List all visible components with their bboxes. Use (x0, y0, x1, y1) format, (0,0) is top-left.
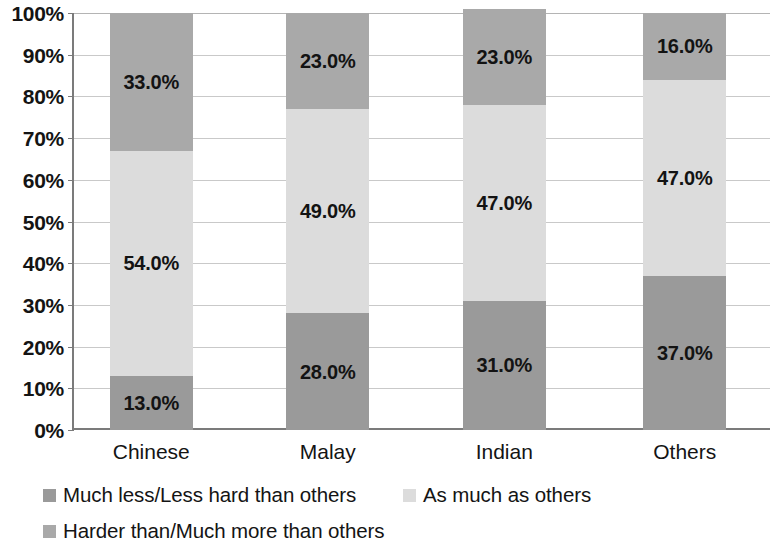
x-axis: ChineseMalayIndianOthers (72, 440, 770, 474)
stacked-bar-chart: 100%90%80%70%60%50%40%30%20%10%0% 13.0%5… (0, 0, 782, 553)
y-axis-tick-label: 60% (23, 169, 64, 190)
legend-item[interactable]: Much less/Less hard than others (43, 485, 356, 506)
bars-layer: 13.0%54.0%33.0%28.0%49.0%23.0%31.0%47.0%… (72, 13, 770, 430)
legend-label: Harder than/Much more than others (63, 521, 384, 542)
bar-segment[interactable]: 28.0% (286, 313, 369, 430)
x-axis-tick-label: Chinese (64, 440, 239, 463)
bar-segment-value-label: 23.0% (463, 47, 546, 67)
bar-segment[interactable]: 31.0% (463, 301, 546, 430)
bar-segment-value-label: 37.0% (643, 343, 726, 363)
bar-segment[interactable]: 37.0% (643, 276, 726, 430)
legend-label: Much less/Less hard than others (63, 485, 356, 506)
bar-segment-value-label: 47.0% (463, 193, 546, 213)
bar-segment[interactable]: 33.0% (110, 13, 193, 151)
legend-swatch-icon (43, 489, 56, 502)
x-axis-tick-label: Indian (417, 440, 592, 463)
y-axis-tick-label: 70% (23, 128, 64, 149)
y-axis-tick-label: 90% (23, 44, 64, 65)
bar-segment[interactable]: 54.0% (110, 151, 193, 376)
bar-stack: 13.0%54.0%33.0% (110, 13, 193, 430)
y-axis-tick-mark (68, 430, 74, 431)
bar-segment-value-label: 33.0% (110, 72, 193, 92)
bar-segment[interactable]: 23.0% (286, 13, 369, 109)
y-axis-tick-label: 80% (23, 86, 64, 107)
y-axis-tick-label: 20% (23, 336, 64, 357)
y-axis-tick-label: 40% (23, 253, 64, 274)
bar-segment-value-label: 28.0% (286, 362, 369, 382)
y-axis-tick-label: 50% (23, 211, 64, 232)
bar-group-others[interactable]: 37.0%47.0%16.0% (643, 13, 726, 430)
bar-segment-value-label: 23.0% (286, 51, 369, 71)
plot-wrapper: 100%90%80%70%60%50%40%30%20%10%0% 13.0%5… (0, 0, 782, 445)
bar-segment[interactable]: 47.0% (643, 80, 726, 276)
bar-group-chinese[interactable]: 13.0%54.0%33.0% (110, 13, 193, 430)
legend-swatch-icon (403, 489, 416, 502)
bar-stack: 28.0%49.0%23.0% (286, 13, 369, 430)
y-axis-tick-label: 0% (34, 420, 64, 441)
bar-stack: 37.0%47.0%16.0% (643, 13, 726, 430)
bar-segment-value-label: 47.0% (643, 168, 726, 188)
bar-segment[interactable]: 47.0% (463, 105, 546, 301)
y-axis: 100%90%80%70%60%50%40%30%20%10%0% (0, 13, 64, 430)
bar-segment-value-label: 31.0% (463, 355, 546, 375)
bar-segment-value-label: 49.0% (286, 201, 369, 221)
legend-item[interactable]: As much as others (403, 485, 591, 506)
bar-segment[interactable]: 16.0% (643, 13, 726, 80)
bar-segment-value-label: 13.0% (110, 393, 193, 413)
legend-item[interactable]: Harder than/Much more than others (43, 521, 384, 542)
chart-legend: Much less/Less hard than othersAs much a… (0, 483, 782, 553)
bar-segment[interactable]: 23.0% (463, 9, 546, 105)
bar-segment[interactable]: 49.0% (286, 109, 369, 313)
legend-label: As much as others (423, 485, 591, 506)
legend-swatch-icon (43, 525, 56, 538)
bar-segment-value-label: 54.0% (110, 253, 193, 273)
y-axis-tick-label: 100% (11, 3, 64, 24)
bar-group-malay[interactable]: 28.0%49.0%23.0% (286, 13, 369, 430)
bar-stack: 31.0%47.0%23.0% (463, 13, 546, 430)
bar-segment[interactable]: 13.0% (110, 376, 193, 430)
x-axis-tick-label: Others (598, 440, 773, 463)
y-axis-tick-label: 10% (23, 378, 64, 399)
y-axis-tick-label: 30% (23, 294, 64, 315)
bar-group-indian[interactable]: 31.0%47.0%23.0% (463, 13, 546, 430)
bar-segment-value-label: 16.0% (643, 36, 726, 56)
x-axis-tick-label: Malay (241, 440, 416, 463)
